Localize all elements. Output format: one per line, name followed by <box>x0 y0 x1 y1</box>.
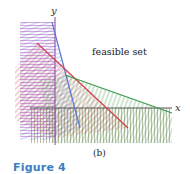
feasible-set-label: feasible set <box>92 46 147 57</box>
figure-caption: Figure 4 <box>13 161 66 174</box>
x-axis-label: x <box>175 102 181 113</box>
y-axis-label: y <box>50 5 57 16</box>
feasible-set-diagram: y x feasible set (b) <box>0 0 190 174</box>
green-hatch-region <box>40 75 172 143</box>
subfigure-label: (b) <box>93 148 106 158</box>
